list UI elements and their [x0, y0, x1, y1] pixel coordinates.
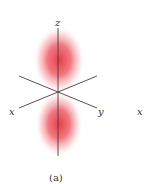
y-axis-label: y — [97, 106, 104, 117]
x-axis-label: x — [9, 106, 15, 117]
lower-lobe — [35, 91, 83, 157]
orbital-diagram: z x y x (a) — [0, 0, 148, 184]
z-axis-label: z — [54, 17, 61, 28]
neighbor-x-label: x — [137, 106, 143, 117]
figure-caption: (a) — [49, 172, 63, 183]
